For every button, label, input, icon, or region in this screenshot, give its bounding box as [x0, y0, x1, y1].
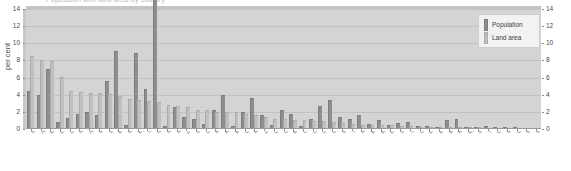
bar-group	[212, 9, 220, 129]
bar-land-area	[186, 107, 190, 129]
figure-title: Population and land area by country	[46, 0, 571, 3]
bar-group	[66, 9, 74, 129]
bar-group	[406, 9, 414, 129]
y-axis-tick-label-right: 8	[546, 57, 560, 64]
x-axis-labels: SudanAlgeriaDem. Rep. CongoLibyaChadNige…	[0, 131, 571, 171]
bar-group	[221, 9, 229, 129]
bar-group	[348, 9, 356, 129]
bar-group	[231, 9, 239, 129]
legend: Population Land area	[478, 14, 540, 48]
y-axis-tick-right	[542, 26, 544, 27]
bar-group	[153, 9, 161, 129]
bar-group	[134, 9, 142, 129]
bar-land-area	[254, 115, 258, 129]
bar-group	[56, 9, 64, 129]
bar-land-area	[176, 106, 180, 129]
bar-land-area	[50, 61, 54, 129]
chart-figure: Population and land area by country per …	[0, 0, 571, 171]
bar-group	[124, 9, 132, 129]
y-axis-tick-label: 12	[6, 23, 20, 30]
bar-group	[163, 9, 171, 129]
y-axis-tick	[23, 43, 25, 44]
bar-group	[328, 9, 336, 129]
y-axis-tick-label: 2	[6, 109, 20, 116]
bar-group	[114, 9, 122, 129]
bar-group	[85, 9, 93, 129]
y-axis-tick	[23, 9, 25, 10]
bar-land-area	[215, 112, 219, 129]
bar-land-area	[79, 92, 83, 129]
y-axis-tick	[23, 95, 25, 96]
y-axis-tick-right	[542, 43, 544, 44]
x-axis-label: Mali	[98, 131, 109, 135]
bar-land-area	[147, 101, 151, 129]
bar-group	[202, 9, 210, 129]
bar-group	[250, 9, 258, 129]
bar-land-area	[196, 110, 200, 129]
bar-group	[46, 9, 54, 129]
bar-group	[289, 9, 297, 129]
y-axis-tick	[23, 129, 25, 130]
bar-group	[464, 9, 472, 129]
y-axis-tick	[23, 78, 25, 79]
y-axis-tick-label: 10	[6, 40, 20, 47]
y-axis-tick-label-right: 10	[546, 40, 560, 47]
y-axis-tick	[23, 60, 25, 61]
legend-item-population: Population	[484, 18, 523, 31]
y-axis-tick-label-right: 2	[546, 109, 560, 116]
bar-land-area	[205, 110, 209, 129]
bar-group	[377, 9, 385, 129]
bar-group	[173, 9, 181, 129]
x-axis-label: Seychelles	[535, 131, 557, 135]
bar-group	[144, 9, 152, 129]
bar-group	[260, 9, 268, 129]
y-axis-tick-label: 6	[6, 75, 20, 82]
y-axis-tick-label: 14	[6, 6, 20, 13]
y-axis-tick-label-right: 12	[546, 23, 560, 30]
bar-series-container	[26, 9, 541, 129]
bar-land-area	[128, 99, 132, 129]
bar-group	[309, 9, 317, 129]
y-axis-tick-right	[542, 78, 544, 79]
bar-group	[416, 9, 424, 129]
bar-group	[95, 9, 103, 129]
bar-land-area	[30, 56, 34, 129]
y-axis-tick-label-right: 14	[546, 6, 560, 13]
y-axis-tick-right	[542, 112, 544, 113]
bar-group	[105, 9, 113, 129]
y-axis-tick-right	[542, 129, 544, 130]
bar-group	[37, 9, 45, 129]
bar-group	[241, 9, 249, 129]
bar-group	[387, 9, 395, 129]
bar-group	[455, 9, 463, 129]
bar-land-area	[137, 100, 141, 129]
bar-group	[357, 9, 365, 129]
bar-land-area	[69, 91, 73, 129]
y-axis-tick-label: 4	[6, 92, 20, 99]
bar-land-area	[60, 77, 64, 129]
bar-group	[182, 9, 190, 129]
legend-swatch-population-icon	[484, 19, 488, 31]
y-axis-tick	[23, 26, 25, 27]
plot-area	[26, 9, 541, 129]
bar-land-area	[118, 96, 122, 129]
bar-group	[299, 9, 307, 129]
bar-group	[270, 9, 278, 129]
bar-land-area	[167, 105, 171, 129]
bar-land-area	[225, 112, 229, 129]
y-axis-tick	[23, 112, 25, 113]
bar-group	[280, 9, 288, 129]
bar-land-area	[108, 94, 112, 129]
bar-land-area	[40, 60, 44, 129]
bar-group	[338, 9, 346, 129]
bar-land-area	[244, 114, 248, 129]
bar-land-area	[98, 93, 102, 129]
y-axis-tick-right	[542, 9, 544, 10]
bar-group	[435, 9, 443, 129]
bar-group	[425, 9, 433, 129]
bar-group	[76, 9, 84, 129]
bar-group	[318, 9, 326, 129]
legend-item-land-area: Land area	[484, 31, 521, 44]
y-axis-tick-right	[542, 60, 544, 61]
y-axis-tick-label-right: 4	[546, 92, 560, 99]
